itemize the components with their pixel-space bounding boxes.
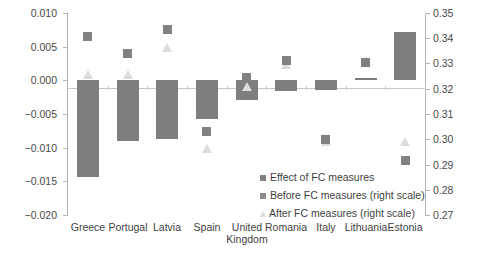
- left-axis-tick: [63, 13, 67, 14]
- left-axis-tick-label: 0.010: [31, 8, 57, 19]
- right-axis-tick: [426, 114, 430, 115]
- bar: [156, 80, 178, 139]
- triangle-marker: [202, 144, 212, 153]
- legend-item-after[interactable]: After FC measures (right scale): [260, 206, 440, 221]
- square-marker: [163, 25, 172, 34]
- square-marker: [321, 135, 330, 144]
- bar: [394, 32, 416, 80]
- square-marker: [282, 56, 291, 65]
- x-axis-tick: [425, 86, 426, 90]
- right-axis-tick: [426, 13, 430, 14]
- triangle-marker: [83, 70, 93, 79]
- triangle-marker-icon: [260, 211, 266, 217]
- right-axis-tick: [426, 38, 430, 39]
- legend-item-effect[interactable]: Effect of FC measures: [260, 170, 440, 185]
- right-axis-tick: [426, 63, 430, 64]
- left-axis-tick: [63, 181, 67, 182]
- bar: [117, 80, 139, 141]
- right-axis-tick-label: 0.33: [433, 58, 453, 69]
- bar: [315, 80, 337, 90]
- left-axis-tick-label: −0.005: [25, 109, 57, 120]
- square-marker: [361, 58, 370, 67]
- triangle-marker: [162, 43, 172, 52]
- right-axis-tick-label: 0.29: [433, 160, 453, 171]
- right-axis-tick-label: 0.32: [433, 84, 453, 95]
- left-axis-tick: [63, 47, 67, 48]
- square-marker-icon: [260, 193, 266, 199]
- right-axis-tick-label: 0.34: [433, 33, 453, 44]
- square-marker: [123, 49, 132, 58]
- square-marker: [242, 73, 251, 82]
- right-axis-tick: [426, 139, 430, 140]
- right-axis-tick-label: 0.35: [433, 8, 453, 19]
- left-axis-tick: [63, 80, 67, 81]
- legend-label: Effect of FC measures: [270, 172, 374, 183]
- bar: [355, 78, 377, 80]
- left-axis-tick-label: −0.010: [25, 143, 57, 154]
- left-axis-tick-label: −0.015: [25, 176, 57, 187]
- left-axis-tick: [63, 215, 67, 216]
- chart-legend: Effect of FC measures Before FC measures…: [260, 170, 440, 224]
- square-marker: [401, 156, 410, 165]
- bar: [275, 80, 297, 91]
- left-axis-tick: [63, 114, 67, 115]
- triangle-marker: [400, 137, 410, 146]
- legend-item-before[interactable]: Before FC measures (right scale): [260, 188, 440, 203]
- right-axis-tick-label: 0.31: [433, 109, 453, 120]
- left-axis-tick-label: 0.000: [31, 75, 57, 86]
- triangle-marker: [242, 82, 252, 91]
- bar: [196, 80, 218, 119]
- square-marker-icon: [260, 175, 266, 181]
- legend-label: After FC measures (right scale): [269, 208, 415, 219]
- right-axis-tick: [426, 89, 430, 90]
- square-marker: [83, 32, 92, 41]
- chart-figure: 0.0100.0050.000−0.005−0.010−0.015−0.020 …: [0, 0, 503, 267]
- bar: [77, 80, 99, 177]
- square-marker: [202, 127, 211, 136]
- legend-label: Before FC measures (right scale): [270, 190, 425, 201]
- left-axis-tick-label: −0.020: [25, 210, 57, 221]
- left-axis-tick: [63, 148, 67, 149]
- triangle-marker: [123, 70, 133, 79]
- right-axis-tick: [426, 165, 430, 166]
- right-axis-tick-label: 0.30: [433, 134, 453, 145]
- left-axis-tick-label: 0.005: [31, 42, 57, 53]
